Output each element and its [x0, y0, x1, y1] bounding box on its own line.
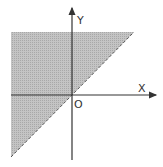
x-axis-label: X: [138, 82, 146, 95]
origin-label: O: [74, 98, 83, 111]
y-axis-label: Y: [76, 14, 84, 27]
coordinate-diagram: Y X O: [0, 0, 163, 167]
